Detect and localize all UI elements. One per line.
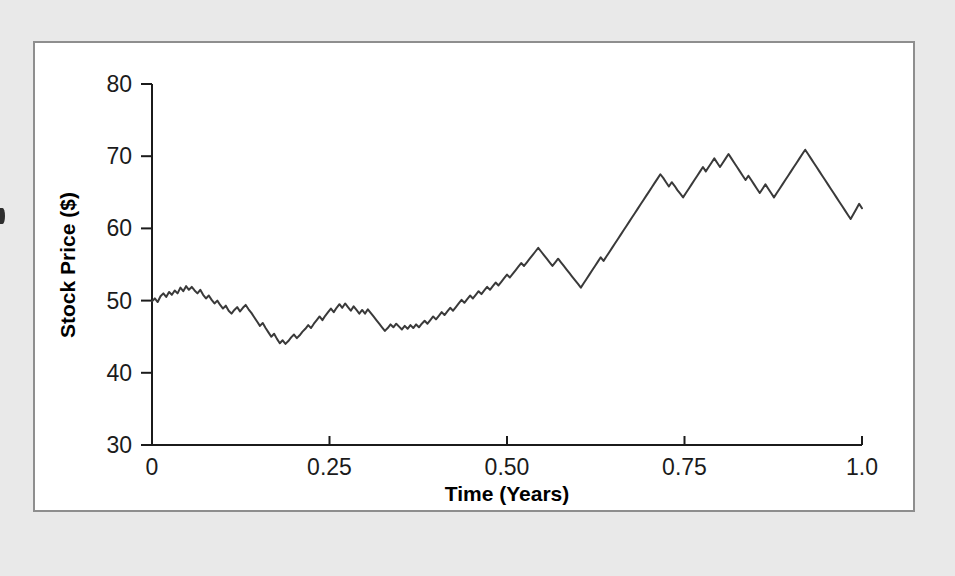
chart-axes <box>152 84 862 445</box>
stock-price-line-chart: 304050607080 00.250.500.751.0 Time (Year… <box>35 43 913 510</box>
y-axis-tick-label: 60 <box>106 215 132 241</box>
x-axis-tick-label: 1.0 <box>846 454 878 480</box>
y-axis-tick-labels: 304050607080 <box>106 71 132 458</box>
y-axis-tick-label: 70 <box>106 143 132 169</box>
x-axis-tick-label: 0 <box>146 454 159 480</box>
x-axis-tick-label: 0.50 <box>485 454 530 480</box>
figure-page: 304050607080 00.250.500.751.0 Time (Year… <box>0 0 955 576</box>
y-axis-tick-label: 30 <box>106 432 132 458</box>
page-edge-artifact <box>0 208 5 224</box>
figure-panel: 304050607080 00.250.500.751.0 Time (Year… <box>33 41 915 512</box>
x-axis-tick-label: 0.25 <box>307 454 352 480</box>
x-axis-tick-labels: 00.250.500.751.0 <box>146 454 878 480</box>
y-axis-ticks <box>141 84 152 445</box>
y-axis-tick-label: 40 <box>106 360 132 386</box>
x-axis-tick-label: 0.75 <box>662 454 707 480</box>
y-axis-title: Stock Price ($) <box>56 192 79 338</box>
x-axis-title: Time (Years) <box>445 482 570 505</box>
x-axis-ticks <box>152 436 862 445</box>
y-axis-tick-label: 50 <box>106 288 132 314</box>
y-axis-tick-label: 80 <box>106 71 132 97</box>
stock-price-series-line <box>152 150 862 344</box>
